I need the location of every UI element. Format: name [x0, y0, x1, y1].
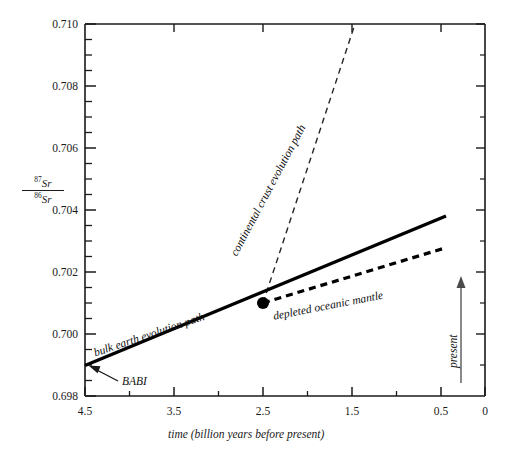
- x-tick-label: 0.5: [434, 405, 449, 417]
- y-tick-label: 0.698: [52, 390, 78, 402]
- top-axis-ticks: [174, 24, 441, 32]
- x-tick-label: 1.5: [345, 405, 360, 417]
- x-tick-label: 2.5: [256, 405, 271, 417]
- y-tick-label: 0.700: [52, 328, 78, 340]
- x-axis-title: time (billion years before present): [168, 428, 324, 440]
- y-tick-label: 0.704: [52, 204, 78, 216]
- x-axis-ticks: [85, 387, 485, 396]
- y-tick-label: 0.708: [52, 80, 78, 92]
- babi-arrow: [89, 366, 119, 382]
- y-tick-labels: 0.710 0.708 0.706 0.704 0.702 0.700 0.69…: [52, 18, 78, 402]
- right-axis-ticks: [476, 24, 485, 365]
- x-tick-labels: 4.5 3.5 2.5 1.5 0.5 0: [78, 405, 488, 417]
- x-tick-label: 3.5: [167, 405, 182, 417]
- y-axis-title: 87Sr 86Sr: [14, 176, 72, 204]
- x-tick-label: 0: [482, 405, 488, 417]
- y-axis-ticks: [85, 24, 96, 396]
- label-present: present: [447, 335, 459, 368]
- y-axis-denominator: 86Sr: [14, 191, 72, 205]
- label-babi: BABI: [122, 375, 147, 387]
- chart-canvas: 0.710 0.708 0.706 0.704 0.702 0.700 0.69…: [0, 0, 505, 466]
- y-tick-label: 0.706: [52, 142, 78, 154]
- x-tick-label: 4.5: [78, 405, 93, 417]
- y-tick-label: 0.702: [52, 266, 78, 278]
- sr-isotope-evolution-figure: 0.710 0.708 0.706 0.704 0.702 0.700 0.69…: [0, 0, 505, 466]
- branch-point-marker: [257, 297, 269, 309]
- y-axis-numerator: 87Sr: [14, 176, 72, 190]
- y-tick-label: 0.710: [52, 18, 78, 30]
